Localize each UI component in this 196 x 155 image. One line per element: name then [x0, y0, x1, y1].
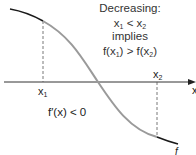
decreasing-function-diagram: Decreasing: x1 < x2 implies f(x1) > f(x2… [0, 0, 196, 155]
x1-label: x1 [38, 85, 48, 98]
x2-label: x2 [153, 68, 163, 81]
derivative-label: f′(x) < 0 [48, 106, 86, 118]
x-axis-label: x [192, 84, 196, 96]
annotation-condition: x1 < x2 [114, 17, 147, 30]
curve-f-label: f [175, 146, 179, 155]
curve-left-segment [10, 9, 43, 21]
annotation-implies: implies [112, 30, 148, 42]
annotation-result: f(x1) > f(x2) [103, 45, 157, 58]
curve-right-segment [157, 137, 178, 144]
annotation-title: Decreasing: [99, 2, 160, 14]
